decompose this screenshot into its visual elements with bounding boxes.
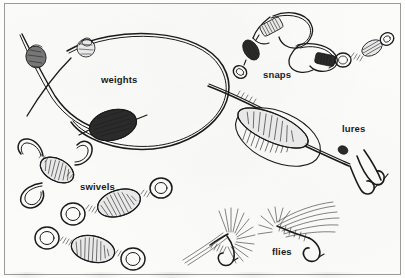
sinker-split-shot [23,43,49,70]
treble-hook [350,150,388,194]
three-way-swivel [18,139,92,208]
scan-artifact-band [8,272,378,278]
label-lures: lures [342,124,365,134]
label-swivels: swivels [80,182,115,192]
fly-right [258,202,339,261]
snap-swivel-lower [289,30,396,72]
illustration-snaps [231,13,396,81]
illustration-weights [20,34,229,150]
label-snaps: snaps [263,70,291,80]
barrel-swivel-bottom [35,227,145,270]
illustration-swivels [18,139,172,270]
barrel-swivel-middle [61,178,172,225]
label-flies: flies [272,247,292,257]
illustration-flies [183,202,339,266]
tackle-illustration-svg [5,4,400,274]
label-weights: weights [101,75,137,85]
fishing-tackle-figure: weights snaps lures swivels flies [0,0,405,278]
illustration-lures [208,84,388,194]
fly-left [183,208,255,266]
illustration-plate: weights snaps lures swivels flies [4,3,401,275]
